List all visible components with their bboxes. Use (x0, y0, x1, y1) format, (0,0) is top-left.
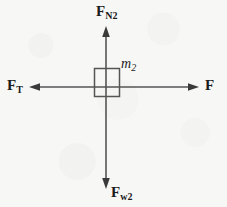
mass-subscript: 2 (131, 62, 136, 73)
mass-symbol: m (121, 56, 131, 71)
force-arrow-weight (102, 87, 110, 189)
mass-label: m2 (121, 57, 136, 73)
arrowhead-up-icon (102, 26, 110, 37)
force-subscript-tension: T (16, 84, 23, 95)
arrowhead-right-icon (188, 83, 199, 91)
force-arrow-normal (102, 26, 110, 87)
mass-block (95, 69, 120, 97)
force-label-applied: F (205, 78, 214, 95)
arrowhead-left-icon (29, 83, 40, 91)
force-symbol-applied: F (205, 77, 214, 93)
force-subscript-weight: w2 (120, 191, 133, 202)
force-symbol-normal: F (96, 3, 105, 19)
force-label-normal: FN2 (96, 4, 118, 21)
force-label-weight: Fw2 (111, 185, 133, 202)
force-label-tension: FT (7, 78, 23, 95)
arrowhead-down-icon (102, 178, 110, 189)
force-vectors-group (0, 0, 227, 207)
force-symbol-weight: F (111, 184, 120, 200)
free-body-diagram: FN2 FT F Fw2 m2 (0, 0, 227, 207)
force-subscript-normal: N2 (105, 10, 118, 21)
force-symbol-tension: F (7, 77, 16, 93)
